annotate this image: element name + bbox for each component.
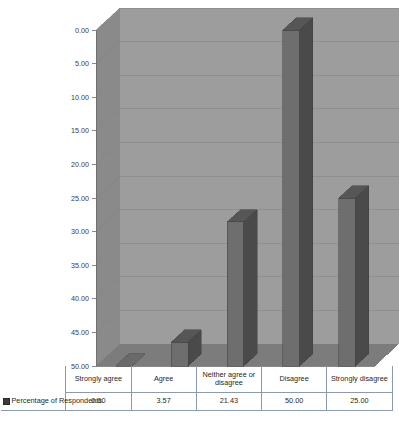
bar-side-face (355, 186, 368, 366)
bar-3 (283, 18, 313, 366)
y-axis-tick-label: 5.00 (75, 59, 89, 68)
y-axis-tick-label: 15.00 (71, 126, 89, 135)
y-axis-tick-label: 40.00 (71, 294, 89, 303)
bar-chart-3d: 50.0045.0040.0035.0030.0025.0020.0015.00… (0, 0, 399, 424)
chart-container: 50.0045.0040.0035.0030.0025.0020.0015.00… (0, 0, 399, 424)
bar-front-face (283, 30, 300, 366)
bar-4 (339, 186, 369, 366)
y-axis-tick-label: 35.00 (71, 261, 89, 270)
y-axis-tick-label: 30.00 (71, 227, 89, 236)
bar-front-face (227, 222, 244, 366)
bar-front-face (339, 198, 356, 366)
y-axis-tick-label: 20.00 (71, 160, 89, 169)
y-axis-tick-label: 50.00 (71, 362, 89, 371)
y-axis-tick-label: 10.00 (71, 93, 89, 102)
bar-side-face (244, 210, 257, 366)
y-axis-tick-label: 25.00 (71, 194, 89, 203)
bar-2 (227, 210, 257, 366)
bar-side-face (300, 18, 313, 366)
y-axis-tick-label: 45.00 (71, 328, 89, 337)
bar-front-face (171, 342, 188, 366)
y-axis-tick-label: 0.00 (75, 26, 89, 35)
